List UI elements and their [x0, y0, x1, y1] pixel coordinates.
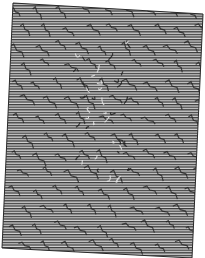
panel: [0, 0, 205, 258]
hatched-artwork: [0, 0, 205, 258]
line-hatch: [0, 0, 205, 258]
